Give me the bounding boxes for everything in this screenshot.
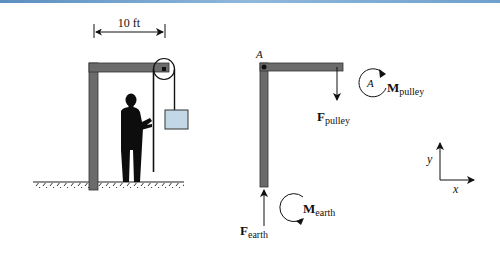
fbd-beam — [260, 63, 343, 71]
m-earth-label: Mearth — [303, 201, 335, 218]
fbd-post — [260, 63, 268, 187]
frame-beam — [89, 63, 169, 72]
dimension-10ft: 10 ft — [94, 16, 165, 38]
m-pulley-point-label: A — [366, 77, 374, 89]
ground-hatch — [33, 182, 184, 188]
person-silhouette — [121, 94, 152, 183]
point-a-label: A — [255, 48, 263, 60]
x-axis-label: x — [452, 182, 459, 196]
pulley-axle — [162, 67, 166, 71]
point-a-marker — [262, 65, 267, 70]
load-box — [165, 110, 188, 129]
f-pulley-label: Fpulley — [317, 109, 350, 126]
free-body-diagram: A Fpulley A Mpulley Fearth Mearth — [240, 48, 424, 240]
m-pulley-arrowhead — [379, 69, 386, 78]
m-earth-arc — [280, 194, 303, 222]
m-pulley-label: Mpulley — [387, 80, 424, 97]
y-axis-label: y — [426, 152, 433, 166]
left-figure: 10 ft — [33, 16, 188, 190]
coordinate-axes: y x — [426, 143, 474, 196]
frame-post — [89, 63, 98, 190]
diagram-canvas: 10 ft A Fpulley — [0, 0, 500, 253]
dimension-label: 10 ft — [118, 16, 141, 30]
m-earth-arrowhead — [296, 218, 304, 225]
